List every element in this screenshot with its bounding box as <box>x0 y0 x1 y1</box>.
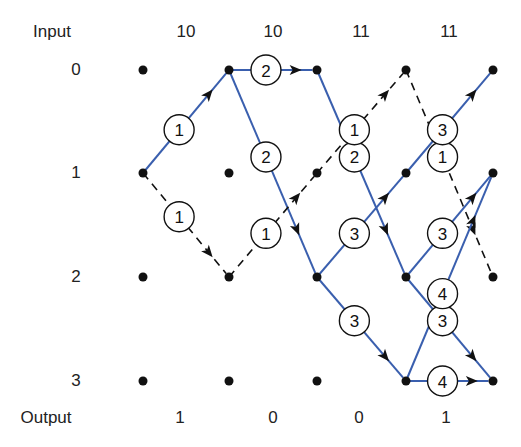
svg-text:3: 3 <box>350 225 359 244</box>
trellis-node-t0-s2 <box>139 273 148 282</box>
path-metric-badge: 2 <box>251 142 281 172</box>
trellis-node-t1-s0 <box>225 66 234 75</box>
path-metric-badge: 3 <box>339 306 369 336</box>
trellis-node-t1-s3 <box>225 377 234 386</box>
svg-text:4: 4 <box>438 285 447 304</box>
trellis-node-t0-s1 <box>139 169 148 178</box>
trellis-node-t2-s3 <box>313 377 322 386</box>
arrowhead-icon <box>379 222 393 237</box>
trellis-node-t1-s2 <box>225 273 234 282</box>
arrowhead-icon <box>201 245 216 261</box>
svg-text:1: 1 <box>174 121 183 140</box>
trellis-node-t1-s1 <box>225 169 234 178</box>
trellis-node-t2-s0 <box>313 66 322 75</box>
svg-text:3: 3 <box>438 312 447 331</box>
path-metric-badge: 2 <box>251 55 281 85</box>
trellis-node-t4-s3 <box>489 377 498 386</box>
svg-text:1: 1 <box>174 208 183 227</box>
arrowhead-icon <box>289 190 304 206</box>
path-metric-badge: 3 <box>339 218 369 248</box>
svg-text:3: 3 <box>350 312 359 331</box>
svg-text:2: 2 <box>261 62 270 81</box>
path-metric-badge: 1 <box>251 218 281 248</box>
path-metric-badge: 3 <box>428 115 458 145</box>
trellis-diagram: 112212133133344 <box>0 0 521 447</box>
path-metric-badge: 1 <box>428 142 458 172</box>
trellis-node-t3-s0 <box>402 66 411 75</box>
path-metric-badge: 2 <box>339 142 369 172</box>
trellis-node-t3-s3 <box>402 377 411 386</box>
metric-badges-layer: 112212133133344 <box>164 55 457 396</box>
path-metric-badge: 3 <box>428 218 458 248</box>
svg-text:4: 4 <box>438 373 447 392</box>
svg-text:1: 1 <box>350 121 359 140</box>
svg-text:2: 2 <box>261 148 270 167</box>
path-metric-badge: 3 <box>428 306 458 336</box>
arrowhead-icon <box>377 86 392 102</box>
trellis-node-t0-s0 <box>139 66 148 75</box>
path-metric-badge: 1 <box>164 115 194 145</box>
svg-text:2: 2 <box>350 148 359 167</box>
trellis-node-t3-s2 <box>402 273 411 282</box>
trellis-node-t2-s2 <box>313 273 322 282</box>
trellis-node-t4-s1 <box>489 169 498 178</box>
trellis-node-t2-s1 <box>313 169 322 178</box>
path-metric-badge: 1 <box>164 202 194 232</box>
trellis-node-t3-s1 <box>402 169 411 178</box>
arrowhead-icon <box>290 222 304 237</box>
path-metric-badge: 4 <box>428 279 458 309</box>
svg-text:1: 1 <box>261 225 270 244</box>
trellis-node-t4-s2 <box>489 273 498 282</box>
svg-text:1: 1 <box>438 148 447 167</box>
trellis-node-t4-s0 <box>489 66 498 75</box>
svg-text:3: 3 <box>438 121 447 140</box>
trellis-node-t0-s3 <box>139 377 148 386</box>
svg-text:3: 3 <box>438 225 447 244</box>
path-metric-badge: 1 <box>339 115 369 145</box>
path-metric-badge: 4 <box>428 366 458 396</box>
trellis-edge-solid <box>406 177 491 381</box>
